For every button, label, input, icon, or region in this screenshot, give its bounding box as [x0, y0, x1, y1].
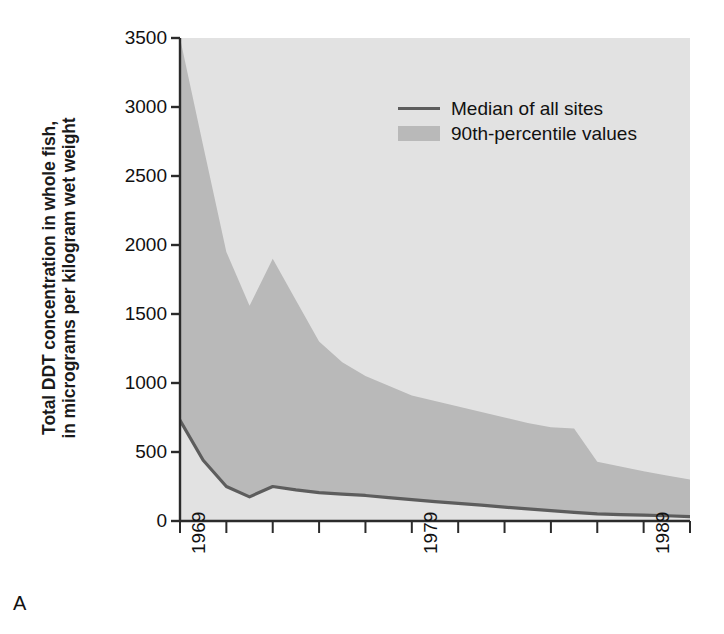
x-tick-label-1979: 1979 [421, 512, 440, 554]
legend-item-percentile: 90th-percentile values [398, 121, 658, 146]
legend-label-percentile: 90th-percentile values [451, 124, 637, 143]
legend-label-median: Median of all sites [451, 99, 603, 118]
y-axis-title-line-1: Total DDT concentration in whole fish, [39, 121, 59, 435]
x-tick-label-1969: 1969 [189, 512, 208, 554]
legend-item-median: Median of all sites [398, 96, 658, 121]
median-line-swatch-icon [398, 107, 440, 110]
figure-panel-a: Total DDT concentration in whole fish, i… [0, 0, 724, 634]
x-tick-label-1989: 1989 [653, 512, 672, 554]
band-fill-swatch-icon [398, 126, 440, 141]
y-axis-title-line-2: in micrograms per kilogram wet weight [59, 117, 79, 438]
y-axis-title: Total DDT concentration in whole fish, i… [36, 38, 82, 518]
x-axis-tick-labels: 196919791989 [0, 536, 724, 634]
panel-letter: A [13, 592, 26, 615]
chart-legend: Median of all sites 90th-percentile valu… [398, 96, 658, 146]
